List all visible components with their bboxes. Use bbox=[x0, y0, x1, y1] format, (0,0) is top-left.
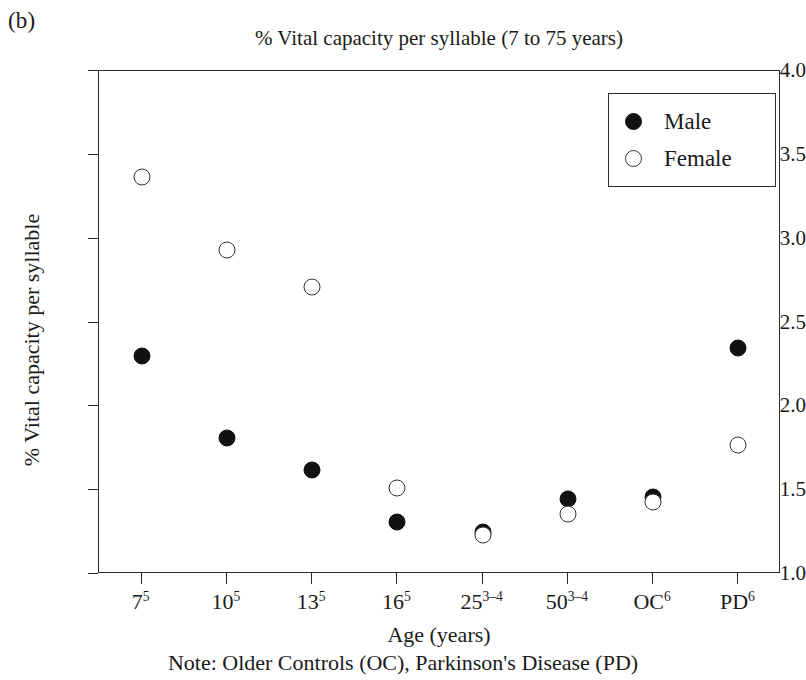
x-tick-mark bbox=[737, 573, 738, 584]
x-tick-mark bbox=[141, 573, 142, 584]
y-tick-mark bbox=[88, 405, 98, 406]
y-tick-mark bbox=[88, 322, 98, 323]
data-point-female bbox=[218, 242, 235, 259]
y-tick-label: 3.0 bbox=[748, 225, 806, 250]
y-tick-mark bbox=[88, 154, 98, 155]
y-tick-label: 3.5 bbox=[748, 141, 806, 166]
y-tick-label: 1.5 bbox=[748, 477, 806, 502]
x-tick-mark bbox=[226, 573, 227, 584]
chart-legend: Male Female bbox=[608, 93, 776, 187]
legend-label-male: Male bbox=[664, 109, 711, 135]
data-point-female bbox=[389, 480, 406, 497]
panel-label: (b) bbox=[8, 8, 35, 34]
y-tick-mark bbox=[88, 238, 98, 239]
chart-title: % Vital capacity per syllable (7 to 75 y… bbox=[98, 26, 780, 51]
data-point-male bbox=[133, 348, 150, 365]
legend-item-male: Male bbox=[609, 103, 775, 140]
x-tick-mark bbox=[482, 573, 483, 584]
x-tick-mark bbox=[567, 573, 568, 584]
y-tick-mark bbox=[88, 489, 98, 490]
x-axis-title: Age (years) bbox=[98, 622, 780, 648]
female-marker-icon bbox=[625, 150, 642, 167]
data-point-female bbox=[304, 279, 321, 296]
data-point-female bbox=[559, 505, 576, 522]
data-point-female bbox=[474, 527, 491, 544]
y-tick-label: 4.0 bbox=[748, 58, 806, 83]
y-tick-label: 2.5 bbox=[748, 309, 806, 334]
y-axis-title: % Vital capacity per syllable bbox=[19, 130, 45, 550]
y-tick-mark bbox=[88, 70, 98, 71]
data-point-male bbox=[730, 339, 747, 356]
legend-label-female: Female bbox=[664, 146, 732, 172]
data-point-female bbox=[645, 493, 662, 510]
data-point-female bbox=[133, 168, 150, 185]
data-point-male bbox=[304, 462, 321, 479]
data-point-male bbox=[218, 430, 235, 447]
y-tick-mark bbox=[88, 573, 98, 574]
x-tick-label: PD6 bbox=[677, 589, 797, 615]
chart-note: Note: Older Controls (OC), Parkinson's D… bbox=[0, 650, 806, 676]
data-point-female bbox=[730, 436, 747, 453]
y-tick-label: 1.0 bbox=[748, 561, 806, 586]
male-marker-icon bbox=[625, 113, 642, 130]
x-tick-mark bbox=[311, 573, 312, 584]
y-tick-label: 2.0 bbox=[748, 393, 806, 418]
x-tick-mark bbox=[652, 573, 653, 584]
data-point-male bbox=[389, 514, 406, 531]
x-tick-mark bbox=[396, 573, 397, 584]
